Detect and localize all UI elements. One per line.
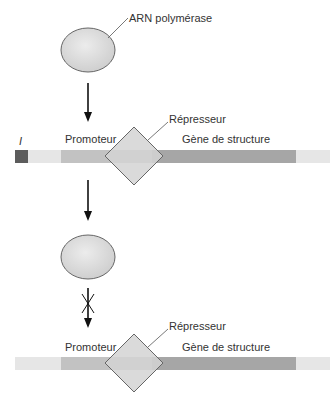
arrowhead-icon xyxy=(84,112,92,122)
regulator-gene-label: I xyxy=(19,135,22,147)
top-panel: ARN polymérase I Promoteur Gène de struc… xyxy=(15,12,330,185)
polymerase-label: ARN polymérase xyxy=(129,12,212,24)
promoter-label: Promoteur xyxy=(65,133,117,145)
structural-gene-label: Gène de structure xyxy=(182,341,270,353)
regulator-gene-i xyxy=(15,150,28,163)
structural-gene-region xyxy=(152,357,296,370)
repressor-label: Répresseur xyxy=(169,113,226,125)
promoter-label: Promoteur xyxy=(65,341,117,353)
polymerase-leader-line xyxy=(108,18,128,38)
rna-polymerase-shape xyxy=(61,235,115,279)
lac-operon-diagram: ARN polymérase I Promoteur Gène de struc… xyxy=(0,0,334,403)
repressor-label: Répresseur xyxy=(169,320,226,332)
rna-polymerase-shape xyxy=(61,28,115,72)
bottom-panel: Promoteur Gène de structure Répresseur xyxy=(15,235,330,392)
structural-gene-label: Gène de structure xyxy=(182,133,270,145)
arrowhead-icon xyxy=(84,211,92,221)
repressor-leader-line xyxy=(148,122,168,140)
arrowhead-icon xyxy=(84,318,92,328)
repressor-leader-line xyxy=(148,329,168,347)
structural-gene-region xyxy=(152,150,296,163)
